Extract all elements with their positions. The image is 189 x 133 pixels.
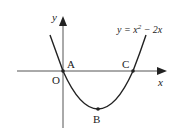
y-axis-label: y [51,11,57,23]
origin-label: O [52,74,60,86]
point-a-marker [61,69,65,73]
point-a-label: A [67,58,75,70]
parabola-diagram: y x O A B C y = x2 − 2x [0,0,189,133]
point-b-label: B [93,113,100,125]
point-c-label: C [122,58,129,70]
equation-prefix: y = x [116,24,138,35]
equation-suffix: − 2x [141,24,163,35]
point-c-marker [131,69,135,73]
x-axis-arrow-icon [157,67,167,75]
y-axis-arrow-icon [59,16,67,26]
x-axis-label: x [157,76,163,88]
point-b-marker [96,107,100,111]
equation-label: y = x2 − 2x [116,23,163,35]
